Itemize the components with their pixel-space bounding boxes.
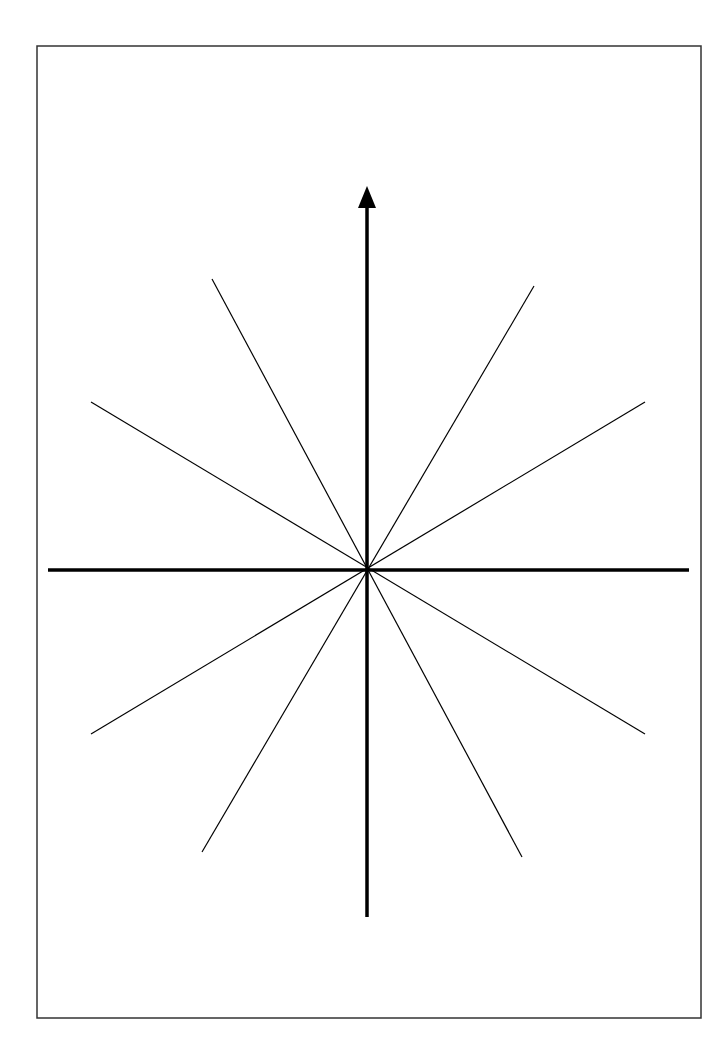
- diagram-canvas: [0, 0, 724, 1057]
- arrow-up-icon: [358, 186, 376, 208]
